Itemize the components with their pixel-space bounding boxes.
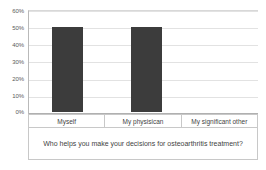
bar-myself[interactable] <box>52 27 83 112</box>
category-label-myself: Myself <box>29 115 105 127</box>
y-tick-label-50: 50% <box>0 25 24 31</box>
category-label-my-significant-other: My significant other <box>182 115 257 127</box>
y-tick-label-10: 10% <box>0 93 24 99</box>
y-tick-label-20: 20% <box>0 76 24 82</box>
plot-area <box>28 10 258 114</box>
y-tick-label-40: 40% <box>0 42 24 48</box>
x-axis-category-table: Myself My physisican My significant othe… <box>28 114 258 128</box>
y-axis: 60% 50% 40% 30% 20% 10% 0% <box>0 8 26 116</box>
axis-title-container: Who helps you make your decisions for os… <box>28 128 258 160</box>
bars-layer <box>29 11 258 114</box>
y-tick-label-60: 60% <box>0 8 24 14</box>
category-label-my-physisican: My physisican <box>105 115 181 127</box>
y-tick-label-30: 30% <box>0 59 24 65</box>
bar-my-physisican[interactable] <box>131 27 162 112</box>
y-tick-label-0: 0% <box>0 109 24 115</box>
bar-chart: 60% 50% 40% 30% 20% 10% 0% Myself My phy… <box>0 0 266 170</box>
x-axis-title: Who helps you make your decisions for os… <box>43 139 243 149</box>
